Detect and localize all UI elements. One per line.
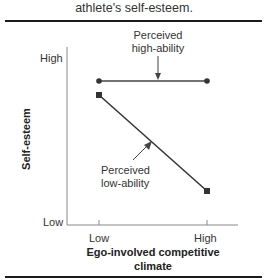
series-high-ability	[96, 78, 210, 84]
y-tick-low: Low	[43, 216, 63, 229]
y-axis-title: Self-esteem	[20, 99, 32, 179]
high-ability-point-high	[204, 78, 210, 84]
x-axis-title-line1: Ego-involved competitive	[67, 246, 239, 260]
bottom-rule	[5, 276, 262, 278]
y-tick-high: High	[40, 52, 63, 65]
low-ability-point-high	[204, 188, 210, 194]
x-tick-low: Low	[89, 232, 109, 245]
low-ability-point-low	[96, 92, 102, 98]
annotation-high-ability-line1: Perceived	[118, 29, 198, 42]
annotation-low-ability: Perceived low-ability	[101, 164, 150, 190]
annotation-low-ability-line1: Perceived	[101, 164, 150, 177]
arrow-high-ability-icon	[155, 56, 161, 80]
x-axis-title: Ego-involved competitive climate	[67, 246, 239, 273]
annotation-high-ability: Perceived high-ability	[118, 29, 198, 55]
x-tick-high: High	[194, 232, 217, 245]
high-ability-point-low	[96, 78, 102, 84]
annotation-low-ability-line2: low-ability	[101, 177, 150, 190]
annotation-high-ability-line2: high-ability	[118, 42, 198, 55]
x-axis-title-line2: climate	[67, 260, 239, 274]
arrow-low-ability-icon	[133, 141, 152, 160]
